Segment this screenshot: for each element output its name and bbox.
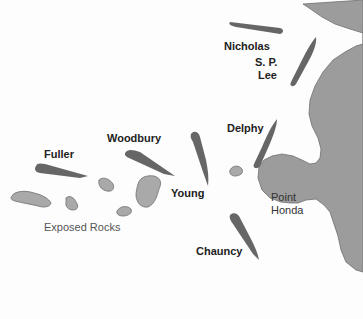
mainland-land	[258, 0, 363, 272]
ship-woodbury	[125, 150, 175, 176]
label-chauncy: Chauncy	[196, 245, 242, 258]
exposed-rock	[136, 176, 161, 207]
ship-young	[191, 132, 209, 186]
label-point-honda-line1: Point	[271, 191, 296, 204]
label-nicholas: Nicholas	[224, 40, 270, 53]
map: Nicholas S. P. Lee Delphy Woodbury Fulle…	[0, 0, 363, 319]
exposed-rock	[66, 197, 78, 210]
label-delphy: Delphy	[227, 122, 264, 135]
exposed-rock	[117, 207, 132, 216]
ship-nicholas	[229, 22, 283, 34]
label-sp-lee-line1: S. P.	[255, 56, 277, 69]
label-fuller: Fuller	[44, 148, 74, 161]
exposed-rock	[11, 191, 51, 207]
label-exposed-rocks: Exposed Rocks	[44, 221, 120, 234]
label-woodbury: Woodbury	[107, 132, 161, 145]
label-point-honda-line2: Honda	[271, 204, 303, 217]
label-young: Young	[171, 187, 204, 200]
ship-sp-lee	[290, 37, 316, 86]
exposed-rock	[99, 178, 114, 191]
ship-fuller	[35, 163, 88, 178]
label-sp-lee-line2: Lee	[258, 69, 277, 82]
exposed-rock	[230, 166, 243, 176]
